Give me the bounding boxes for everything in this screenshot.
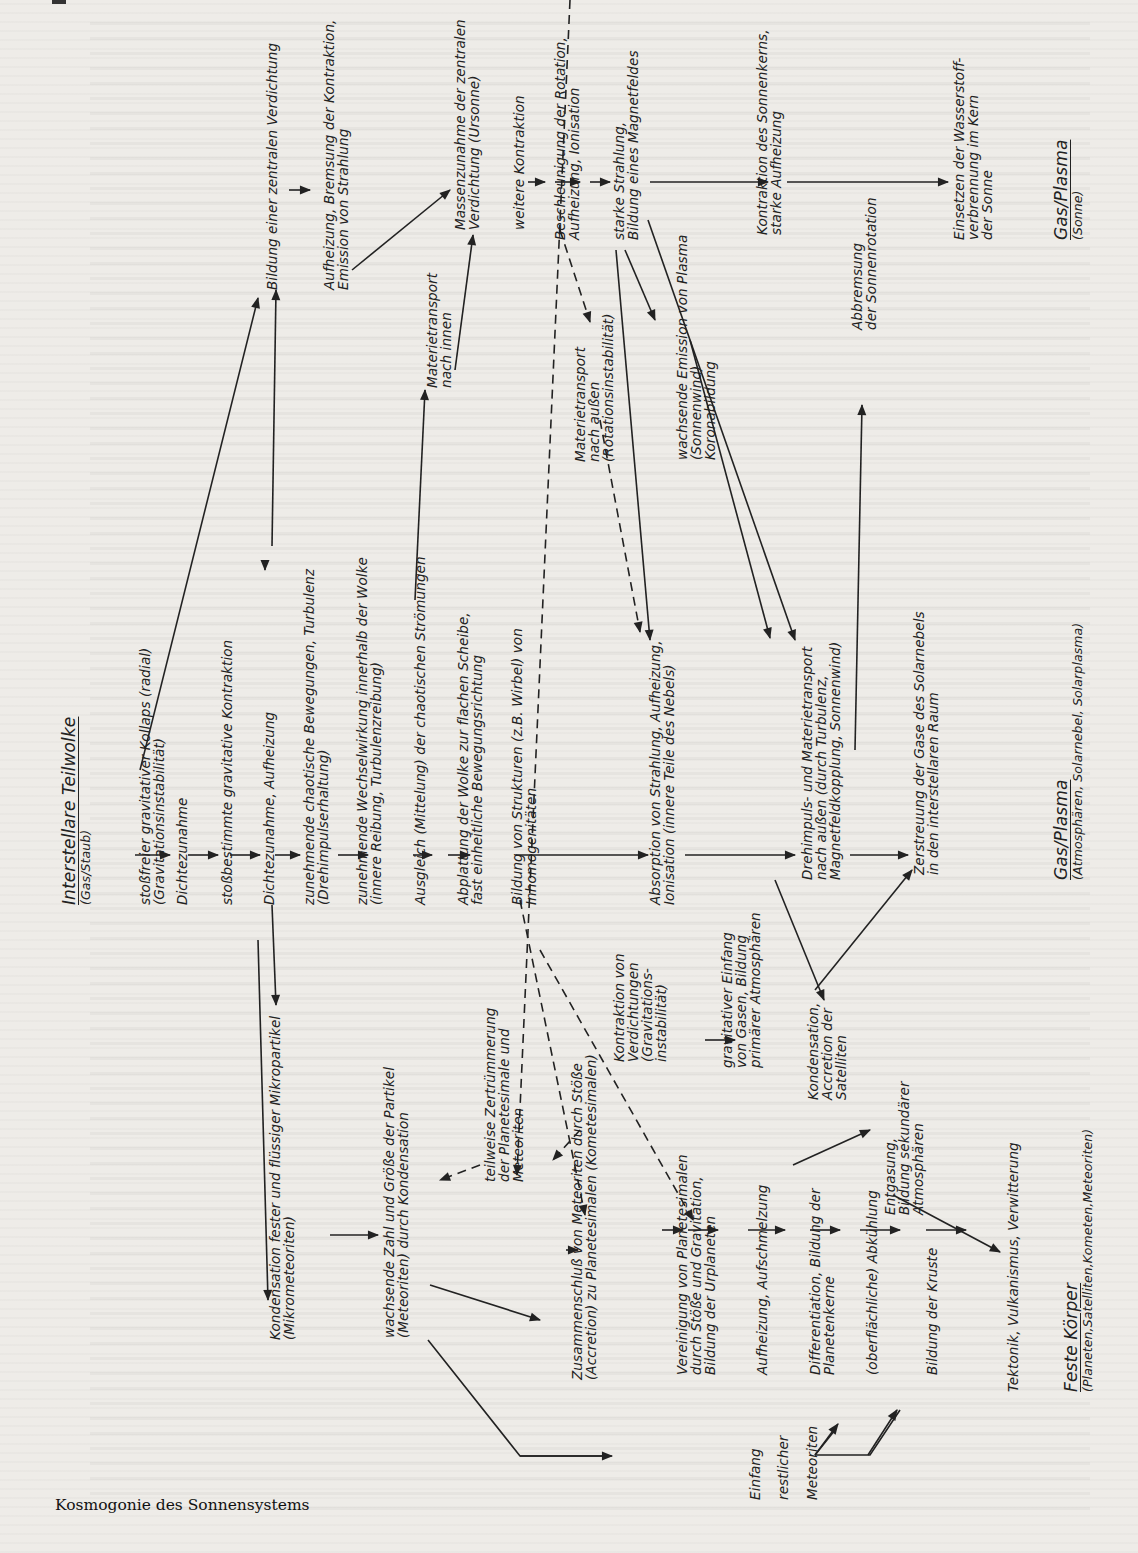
node-core: Kontraktion des Sonnenkerns, starke Aufh…	[755, 29, 783, 235]
node-dispersal: Zerstreuung der Gase des Solarnebels in …	[912, 611, 940, 875]
node-outgas: Entgasung, Bildung sekundärer Atmosphäre…	[883, 1081, 925, 1215]
node-tectonic: Tektonik, Vulkanismus, Verwitterung	[1006, 1142, 1020, 1392]
node-radiation: starke Strahlung, Bildung eines Magnetfe…	[612, 50, 640, 240]
node-fragment: teilweise Zertrümmerung der Planetesimal…	[483, 1008, 525, 1182]
node-growth: wachsende Zahl und Größe der Partikel (M…	[382, 1067, 410, 1338]
node-hydrogen: Einsetzen der Wasserstoff- verbrennung i…	[952, 57, 994, 240]
category-sun: Gas/Plasma (Sonne)	[1052, 140, 1085, 240]
node-capture-rest-3: Meteoriten	[805, 1426, 819, 1500]
node-capture-rest-2: restlicher	[776, 1435, 790, 1500]
category-gas: Gas/Plasma (Atmosphären, Solarnebel, Sol…	[1052, 623, 1085, 880]
node-contraction: stoßbestimmte gravitative Kontraktion	[220, 640, 234, 905]
node-structures: Bildung von Strukturen (z.B. Wirbel) von…	[510, 628, 538, 905]
node-angular: Drehimpuls- und Materietransport nach au…	[800, 642, 842, 880]
node-inward: Materietransport nach innen	[425, 273, 453, 388]
node-central: Bildung einer zentralen Verdichtung	[265, 43, 279, 290]
node-satellites: Kondensation, Accretion der Satelliten	[806, 1003, 848, 1100]
node-collapse: stoßfreier gravitativer Kollaps (radial)…	[138, 648, 166, 905]
node-flatten: Abplattung der Wolke zur flachen Scheibe…	[456, 612, 484, 905]
figure-caption: Kosmogonie des Sonnensystems	[55, 1496, 310, 1514]
node-further: weitere Kontraktion	[512, 95, 526, 230]
node-outward: Materietransport nach außen (Rotationsin…	[573, 313, 615, 462]
node-absorption: Absorption von Strahlung, Aufheizung, Io…	[648, 640, 676, 905]
node-diff: Differentiation, Bildung der Planetenker…	[808, 1188, 836, 1375]
node-capture-rest-1: Einfang	[748, 1448, 762, 1500]
node-chaotic: zunehmende chaotische Bewegungen, Turbul…	[302, 569, 330, 905]
node-cooling: (oberflächliche) Abkühlung	[865, 1190, 879, 1375]
node-capture: gravitativer Einfang von Gasen, Bildung …	[720, 912, 762, 1068]
node-union: Vereinigung von Planetesimalen durch Stö…	[675, 1154, 717, 1375]
node-accretion: Zusammenschluß von Meteoriten durch Stöß…	[570, 1054, 598, 1380]
node-density2: Dichtezunahme, Aufheizung	[262, 712, 276, 905]
node-balance: Ausgleich (Mittelung) der chaotischen St…	[413, 556, 427, 905]
node-heating: Aufheizung, Bremsung der Kontraktion, Em…	[322, 20, 350, 290]
node-mass: Massenzunahme der zentralen Verdichtung …	[453, 19, 481, 230]
node-density1: Dichtezunahme	[175, 797, 189, 905]
category-solid: Feste Körper (Planeten,Satelliten,Komete…	[1062, 1129, 1095, 1392]
node-condens-contr: Kontraktion von Verdichtungen (Gravitati…	[612, 953, 668, 1062]
node-interaction: zunehmende Wechselwirkung innerhalb der …	[355, 557, 383, 905]
book-page: Interstellare Teilwolke (Gas/Staub) stoß…	[0, 0, 1138, 1553]
node-crust: Bildung der Kruste	[925, 1248, 939, 1375]
node-plasma: wachsende Emission von Plasma (Sonnenwin…	[675, 235, 717, 460]
category-start: Interstellare Teilwolke (Gas/Staub)	[60, 717, 93, 905]
node-condensation: Kondensation fester und flüssiger Mikrop…	[268, 1016, 296, 1340]
node-rotation: Beschleunigung der Rotation, Aufheizung,…	[553, 37, 581, 240]
node-braking: Abbremsung der Sonnenrotation	[850, 197, 878, 330]
node-melt: Aufheizung, Aufschmelzung	[755, 1184, 769, 1375]
